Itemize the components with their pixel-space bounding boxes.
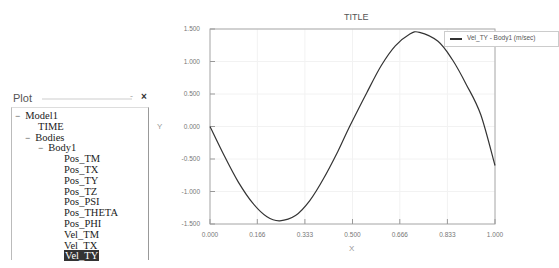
y-tick-label: 1.500 bbox=[170, 25, 200, 32]
gridlines bbox=[210, 29, 495, 224]
y-tick-label: -1.000 bbox=[170, 188, 200, 195]
x-tick-label: 0.666 bbox=[385, 231, 415, 238]
x-tick-label: 0.833 bbox=[432, 231, 462, 238]
legend-label: Vel_TY - Body1 (m/sec) bbox=[467, 34, 536, 41]
y-axis-label: Y bbox=[157, 122, 162, 131]
legend-line-swatch bbox=[450, 38, 462, 40]
x-tick-label: 0.333 bbox=[290, 231, 320, 238]
legend: Vel_TY - Body1 (m/sec) bbox=[444, 31, 559, 47]
y-tick-label: 0.500 bbox=[170, 90, 200, 97]
x-tick-label: 1.000 bbox=[480, 231, 510, 238]
y-tick-label: -0.500 bbox=[170, 155, 200, 162]
x-tick-label: 0.500 bbox=[338, 231, 368, 238]
x-tick-label: 0.166 bbox=[242, 231, 272, 238]
x-tick-label: 0.000 bbox=[195, 231, 225, 238]
y-tick-label: 0.000 bbox=[170, 123, 200, 130]
x-axis-label: X bbox=[349, 244, 354, 253]
y-tick-label: -1.500 bbox=[170, 220, 200, 227]
y-tick-label: 1.000 bbox=[170, 58, 200, 65]
